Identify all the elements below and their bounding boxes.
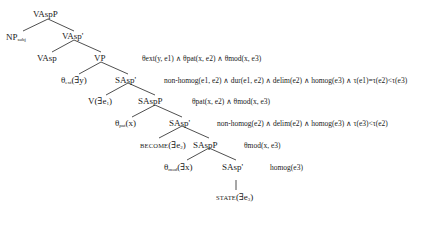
formula-saspp-2: θmod(x, e3) xyxy=(244,141,281,151)
node-theta-ext: θext(∃y) xyxy=(61,75,87,88)
node-vasp-bar: VAsp' xyxy=(62,31,83,41)
node-saspp-2: SAspP xyxy=(193,140,218,150)
node-state: STATE(∃e3) xyxy=(216,192,253,205)
node-v-e1: V(∃e1) xyxy=(88,96,112,109)
node-vaspp: VAspP xyxy=(33,9,58,19)
formula-sasp-bar-2: non-homog(e2) ∧ delim(e2) ∧ homog(e3) ∧ … xyxy=(217,119,388,129)
node-vp: VP xyxy=(94,53,106,63)
node-theta-mod: θmod(∃x) xyxy=(164,162,193,175)
node-become: BECOME(∃e2) xyxy=(140,140,186,153)
node-vasp: VAsp xyxy=(37,53,57,63)
node-sasp-bar-3: SAsp' xyxy=(222,162,243,172)
formula-sasp-bar-1: non-homog(e1, e2) ∧ dur(e1, e2) ∧ delim(… xyxy=(164,76,407,86)
node-np-subj: NPsubj xyxy=(6,32,26,45)
node-sasp-bar-2: SAsp' xyxy=(169,118,190,128)
formula-saspp-1: θpat(x, e2) ∧ θmod(x, e3) xyxy=(192,97,270,107)
node-sasp-bar-1: SAsp' xyxy=(115,75,136,85)
formula-sasp-bar-3: homog(e3) xyxy=(270,163,303,173)
node-saspp-1: SAspP xyxy=(138,96,163,106)
formula-vp: θext(y, e1) ∧ θpat(x, e2) ∧ θmod(x, e3) xyxy=(142,54,261,64)
node-theta-pat: θpat(x) xyxy=(115,118,136,131)
